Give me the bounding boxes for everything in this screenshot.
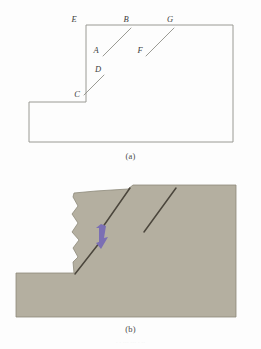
panel-b-caption: (b) (0, 324, 261, 334)
label-a: A (92, 45, 99, 55)
soil-mass (16, 185, 236, 317)
label-f: F (136, 45, 143, 55)
panel-b-diagram (0, 175, 261, 325)
label-e: E (70, 14, 77, 24)
label-d: D (94, 64, 102, 74)
figure-root: E B G A F D C (a) (b) · · ··· ··· · ·· (0, 0, 261, 349)
excavation-outline (29, 25, 233, 142)
label-b: B (123, 14, 128, 24)
panel-a-diagram: E B G A F D C (0, 0, 261, 150)
crack-line-ab (103, 28, 131, 56)
panel-a-caption: (a) (0, 151, 261, 161)
label-g: G (167, 14, 173, 24)
label-c: C (74, 89, 80, 99)
bottom-edge-artifact: · · ··· ··· · ·· (0, 340, 261, 348)
crack-line-fg (146, 28, 174, 56)
crack-line-cd (84, 75, 104, 95)
